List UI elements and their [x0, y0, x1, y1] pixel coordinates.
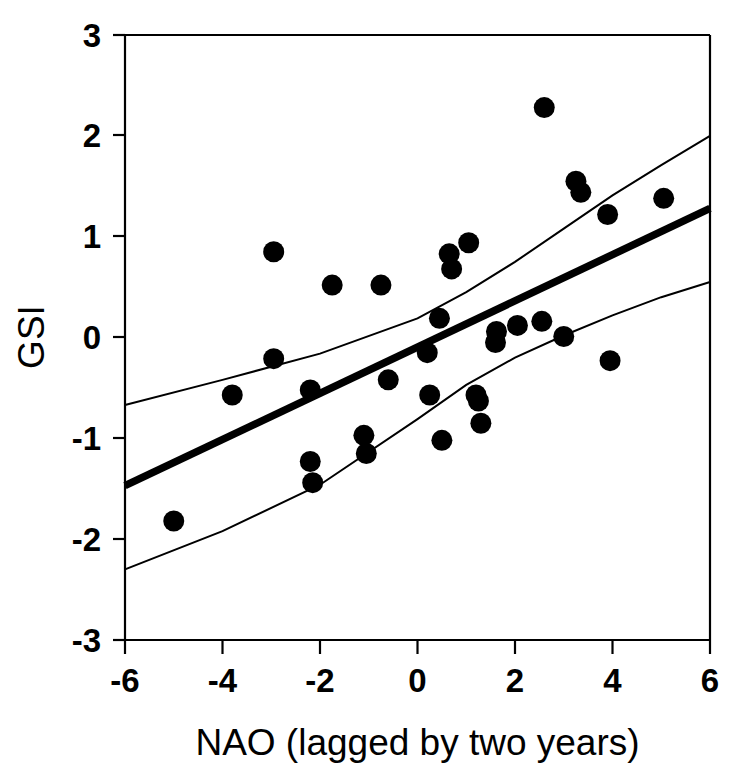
x-tick-label-6: 6: [701, 662, 719, 699]
data-point: [417, 342, 438, 363]
data-point: [356, 443, 377, 464]
x-tick-label-neg6: -6: [110, 662, 139, 699]
data-point: [553, 326, 574, 347]
data-point: [222, 384, 243, 405]
y-tick-label-neg3: -3: [72, 622, 101, 659]
x-tick-label-neg2: -2: [305, 662, 334, 699]
x-tick-label-neg4: -4: [208, 662, 238, 699]
upper-confidence-line: [125, 136, 710, 405]
data-point: [507, 315, 528, 336]
data-point: [531, 311, 552, 332]
x-tick-label-0: 0: [408, 662, 426, 699]
x-axis-tick-labels: -6 -4 -2 0 2 4 6: [110, 662, 719, 699]
y-tick-label-0: 0: [83, 319, 101, 356]
data-point: [163, 511, 184, 532]
data-point: [570, 182, 591, 203]
x-axis-title: NAO (lagged by two years): [195, 722, 639, 763]
data-point: [263, 348, 284, 369]
data-point: [470, 413, 491, 434]
data-point: [370, 275, 391, 296]
data-point-group: [163, 97, 674, 531]
data-point: [597, 204, 618, 225]
y-tick-label-1: 1: [83, 218, 101, 255]
y-axis-title: GSI: [11, 305, 52, 369]
data-point: [429, 308, 450, 329]
y-tick-label-neg1: -1: [72, 420, 101, 457]
data-point: [419, 384, 440, 405]
y-tick-label-2: 2: [83, 117, 101, 154]
data-point: [263, 241, 284, 262]
data-point: [322, 275, 343, 296]
y-tick-label-3: 3: [83, 17, 101, 54]
regression-line: [125, 208, 710, 485]
data-point: [653, 188, 674, 209]
x-tick-label-4: 4: [603, 662, 622, 699]
regression-line-group: [125, 208, 710, 485]
data-point: [534, 97, 555, 118]
data-point: [441, 258, 462, 279]
data-point: [353, 425, 374, 446]
y-axis-tick-labels: 3 2 1 0 -1 -2 -3: [72, 17, 101, 659]
data-point: [600, 350, 621, 371]
x-tick-label-2: 2: [506, 662, 524, 699]
data-point: [458, 232, 479, 253]
chart-canvas: 3 2 1 0 -1 -2 -3 -6 -4 -2 0 2 4 6 NAO (l…: [0, 0, 755, 784]
y-axis-ticks: [113, 35, 125, 640]
x-axis-ticks: [125, 640, 710, 654]
data-point: [486, 321, 507, 342]
data-point: [468, 391, 489, 412]
scatter-plot-figure: 3 2 1 0 -1 -2 -3 -6 -4 -2 0 2 4 6 NAO (l…: [0, 0, 755, 784]
data-point: [431, 430, 452, 451]
y-tick-label-neg2: -2: [72, 521, 101, 558]
lower-confidence-line: [125, 282, 710, 569]
data-point: [302, 472, 323, 493]
data-point: [378, 369, 399, 390]
plot-frame: [125, 35, 710, 640]
data-point: [300, 451, 321, 472]
data-point: [300, 379, 321, 400]
